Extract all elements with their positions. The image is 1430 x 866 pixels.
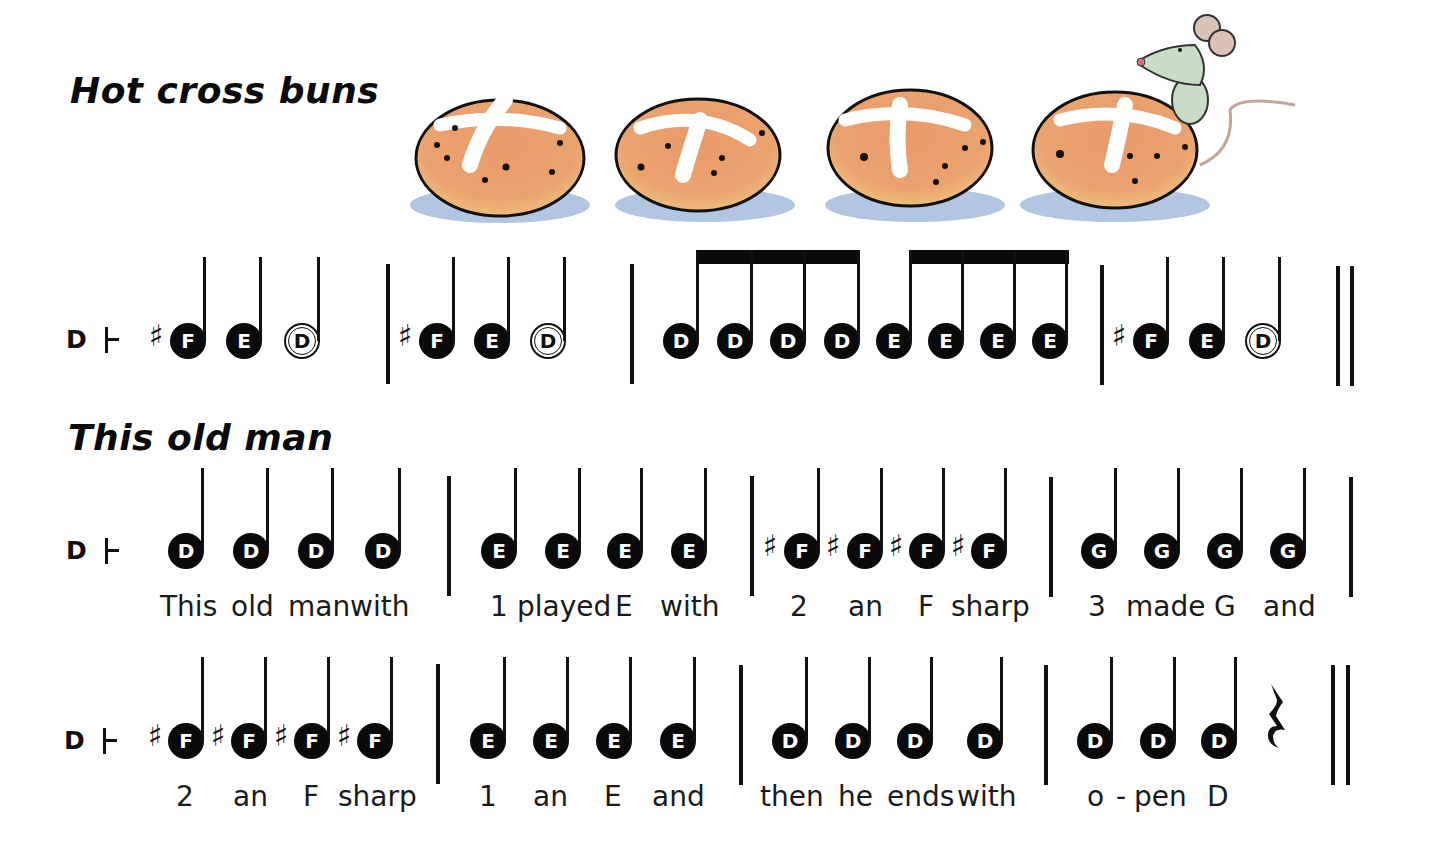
note-stem bbox=[514, 468, 517, 551]
note-d: D bbox=[298, 533, 334, 569]
lyric: G bbox=[1214, 590, 1236, 623]
lyric: then bbox=[760, 780, 824, 813]
clef-tick-icon bbox=[105, 327, 108, 353]
note-f-sharp: F bbox=[847, 533, 883, 569]
note-g: G bbox=[1207, 533, 1243, 569]
note-stem bbox=[880, 468, 883, 551]
note-stem bbox=[704, 468, 707, 551]
note-stem bbox=[629, 657, 632, 741]
note-d: D bbox=[233, 533, 269, 569]
note-stem bbox=[1004, 468, 1007, 551]
note-e: E bbox=[660, 723, 696, 759]
bun-3 bbox=[825, 90, 1005, 222]
lyric: an bbox=[848, 590, 883, 623]
lyric: - bbox=[1116, 780, 1126, 813]
note-stem bbox=[1240, 468, 1243, 551]
note-e: E bbox=[533, 723, 569, 759]
note-stem bbox=[640, 468, 643, 551]
lyric: sharp bbox=[338, 780, 417, 813]
note-e: E bbox=[607, 533, 643, 569]
note-stem bbox=[327, 657, 330, 741]
lyric: an bbox=[533, 780, 568, 813]
note-stem bbox=[1114, 468, 1117, 551]
note-e: E bbox=[671, 533, 707, 569]
sharp-icon: ♯ bbox=[149, 318, 164, 353]
note-stem bbox=[503, 657, 506, 741]
note-d: D bbox=[772, 723, 808, 759]
lyric: made bbox=[1126, 590, 1205, 623]
bar-line bbox=[1349, 477, 1353, 597]
sharp-icon: ♯ bbox=[211, 718, 226, 753]
note-stem bbox=[1166, 257, 1169, 341]
note-f-sharp: F bbox=[419, 323, 455, 359]
note-f-sharp: F bbox=[784, 533, 820, 569]
note-stem bbox=[566, 657, 569, 741]
note-d: D bbox=[897, 723, 933, 759]
note-stem bbox=[201, 657, 204, 741]
note-e: E bbox=[474, 323, 510, 359]
note-stem bbox=[1177, 468, 1180, 551]
note-stem bbox=[961, 250, 964, 341]
lyric: o bbox=[1087, 780, 1104, 813]
note-d: D bbox=[168, 533, 204, 569]
note-stem bbox=[805, 657, 808, 741]
beam bbox=[696, 250, 859, 264]
note-stem bbox=[1234, 657, 1237, 741]
sharp-icon: ♯ bbox=[274, 718, 289, 753]
note-stem bbox=[452, 257, 455, 341]
bar-line bbox=[739, 665, 743, 785]
note-stem bbox=[817, 468, 820, 551]
note-d: D bbox=[1140, 723, 1176, 759]
note-e: E bbox=[596, 723, 632, 759]
clef-tick-icon bbox=[103, 728, 106, 754]
clef-label: D bbox=[64, 726, 85, 755]
note-stem bbox=[563, 257, 566, 341]
lyric: pen bbox=[1134, 780, 1187, 813]
double-bar-line bbox=[1346, 665, 1350, 785]
bar-line bbox=[630, 264, 634, 384]
note-d: D bbox=[1201, 723, 1237, 759]
note-e: E bbox=[470, 723, 506, 759]
song-title-hot-cross-buns: Hot cross buns bbox=[70, 70, 379, 111]
note-stem bbox=[578, 468, 581, 551]
lyric: ends bbox=[887, 780, 954, 813]
note-stem bbox=[398, 468, 401, 551]
note-stem bbox=[1000, 657, 1003, 741]
note-d: D bbox=[824, 323, 860, 359]
bun-4-with-mouse bbox=[1020, 15, 1295, 222]
note-stem bbox=[857, 250, 860, 341]
lyric: and bbox=[652, 780, 705, 813]
double-bar-line bbox=[1336, 266, 1340, 386]
note-g: G bbox=[1144, 533, 1180, 569]
beam bbox=[909, 250, 1069, 264]
quarter-rest-icon bbox=[1265, 682, 1291, 752]
note-stem bbox=[909, 250, 912, 341]
lyric: 3 bbox=[1088, 590, 1106, 623]
note-stem bbox=[1013, 250, 1016, 341]
note-e: E bbox=[980, 323, 1016, 359]
song-title-this-old-man: This old man bbox=[68, 417, 333, 458]
note-d-half: D bbox=[530, 323, 566, 359]
bar-line bbox=[386, 264, 390, 384]
note-d: D bbox=[770, 323, 806, 359]
note-f-sharp: F bbox=[294, 723, 330, 759]
note-d: D bbox=[365, 533, 401, 569]
note-e: E bbox=[876, 323, 912, 359]
note-f-sharp: F bbox=[1133, 323, 1169, 359]
lyric: 2 bbox=[790, 590, 808, 623]
lyric: This bbox=[160, 590, 217, 623]
note-stem bbox=[942, 468, 945, 551]
bun-2 bbox=[615, 99, 795, 222]
lyric: with bbox=[350, 590, 409, 623]
note-stem bbox=[930, 657, 933, 741]
note-stem bbox=[201, 468, 204, 551]
lyric: 2 bbox=[176, 780, 194, 813]
note-d: D bbox=[717, 323, 753, 359]
sharp-icon: ♯ bbox=[337, 718, 352, 753]
lyric: E bbox=[604, 780, 622, 813]
sharp-icon: ♯ bbox=[951, 528, 966, 563]
note-d: D bbox=[835, 723, 871, 759]
sharp-icon: ♯ bbox=[1112, 318, 1127, 353]
note-stem bbox=[696, 250, 699, 341]
lyric: he bbox=[838, 780, 873, 813]
